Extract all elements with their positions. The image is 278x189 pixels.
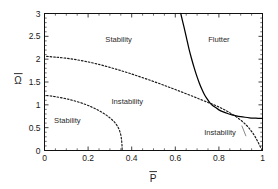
y-tick-label: 0: [36, 146, 41, 156]
x-tick-label: 0.2: [82, 153, 94, 163]
y-tick-label: 0.5: [29, 123, 41, 133]
x-axis-title: P: [149, 172, 157, 184]
y-tick-label: 1: [36, 100, 41, 110]
y-tick-label: 2: [36, 54, 41, 64]
x-axis-title-text: P: [150, 173, 157, 184]
region-label-stability-upper: Stability: [105, 35, 132, 44]
x-tick-label: 0.8: [213, 153, 225, 163]
region-label-instability-middle: Instability: [112, 97, 144, 106]
region-annotations: StabilityFlutterInstabilityStabilityInst…: [54, 35, 246, 137]
region-label-stability-lower-left: Stability: [54, 116, 81, 125]
annotation-leader-line: [242, 126, 246, 137]
chart-figure: StabilityFlutterInstabilityStabilityInst…: [0, 0, 278, 189]
x-tick-label: 1: [260, 153, 265, 163]
y-tick-label: 3: [36, 9, 41, 19]
x-tick-label: 0.6: [169, 153, 181, 163]
region-label-flutter: Flutter: [208, 35, 230, 44]
curve-flutter-boundary: [181, 14, 263, 119]
y-tick-label: 2.5: [29, 31, 41, 41]
tick-labels: 00.20.40.60.8100.511.522.53: [29, 9, 265, 163]
phase-diagram-plot: StabilityFlutterInstabilityStabilityInst…: [0, 0, 278, 189]
y-axis-title-text: Ω: [14, 75, 22, 86]
region-label-instability-lower-right: Instability: [204, 128, 236, 137]
x-tick-label: 0.4: [126, 153, 138, 163]
x-tick-label: 0: [42, 153, 47, 163]
y-axis-title: Ω: [14, 74, 23, 86]
y-tick-label: 1.5: [29, 77, 41, 87]
